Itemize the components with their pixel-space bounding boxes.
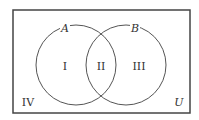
region-iv-label: IV [22, 96, 35, 109]
region-iii-label: III [132, 60, 145, 73]
region-ii-label: II [97, 60, 106, 73]
set-a-label: A [60, 22, 69, 35]
universe-label: U [174, 96, 184, 109]
region-i-label: I [63, 60, 67, 73]
set-b-label: B [130, 22, 139, 35]
venn-diagram: A B I II III IV U [0, 0, 199, 120]
